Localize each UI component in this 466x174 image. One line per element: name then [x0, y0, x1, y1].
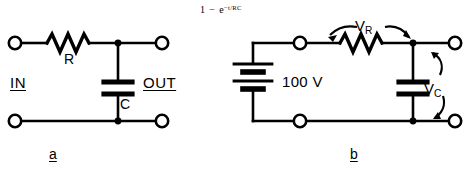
resistor-voltage-label: VR	[355, 18, 372, 36]
vc-symbol: V	[424, 80, 434, 97]
formula-exponent: −t/RC	[224, 4, 242, 11]
terminal-a-out-top	[156, 37, 168, 49]
vc-subscript: C	[434, 88, 441, 99]
vr-subscript: R	[365, 25, 372, 36]
formula-minus: −	[209, 4, 215, 15]
step-response-formula: 1−e−t/RC	[200, 5, 242, 15]
junction-dot-b-top	[410, 40, 417, 47]
junction-dot-b-bottom	[410, 118, 417, 125]
panel-b-caption: b	[350, 147, 358, 161]
source-voltage-label: 100 V	[282, 74, 323, 89]
terminal-a-in-bottom	[9, 115, 21, 127]
terminal-b-source-bottom	[294, 115, 306, 127]
junction-dot-a-bottom	[115, 118, 122, 125]
formula-lead: 1	[200, 4, 205, 15]
terminal-b-out-bottom	[449, 115, 461, 127]
rc-circuit-figure: 1−e−t/RC R C IN OUT a 100 V VR VC b	[0, 0, 466, 174]
capacitor-a-label: C	[120, 97, 130, 111]
terminal-b-source-top	[294, 37, 306, 49]
output-port-label: OUT	[143, 75, 176, 90]
panel-a-caption: a	[49, 147, 57, 161]
resistor-a-zigzag	[47, 34, 89, 52]
input-port-label: IN	[10, 75, 26, 90]
terminal-b-out-top	[449, 37, 461, 49]
voltage-annotation-arrows	[328, 26, 444, 119]
terminal-a-out-bottom	[156, 115, 168, 127]
capacitor-voltage-label: VC	[424, 81, 441, 99]
terminal-a-in-top	[9, 37, 21, 49]
vr-symbol: V	[355, 17, 365, 34]
resistor-b-zigzag	[340, 34, 382, 52]
circuit-schematic-canvas	[0, 0, 466, 174]
vr-arrowhead-left	[328, 35, 337, 42]
junction-dot-a-top	[115, 40, 122, 47]
resistor-a-label: R	[64, 52, 74, 66]
